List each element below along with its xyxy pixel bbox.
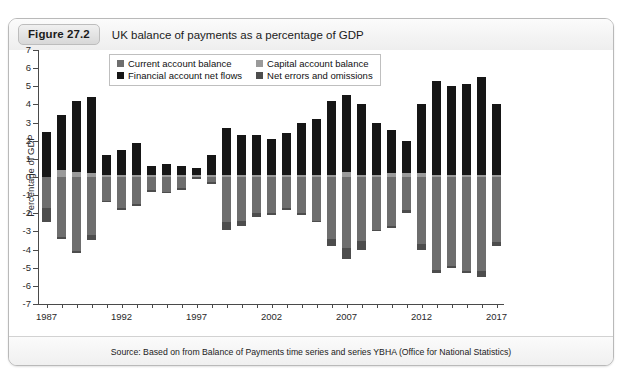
bar-group[interactable] [252, 50, 261, 304]
bar-group[interactable] [87, 50, 96, 304]
bar-group[interactable] [162, 50, 171, 304]
bar-segment [387, 130, 396, 174]
bar-group[interactable] [192, 50, 201, 304]
bar-group[interactable] [237, 50, 246, 304]
bar-segment [177, 177, 186, 188]
chart-canvas: Percentage of GDP 76543210-1-2-3-4-5-6-7… [9, 50, 613, 336]
bar-group[interactable] [102, 50, 111, 304]
bar-group[interactable] [42, 50, 51, 304]
x-tick-mark [182, 304, 183, 308]
bar-group[interactable] [57, 50, 66, 304]
bar-group[interactable] [267, 50, 276, 304]
bar-segment [357, 177, 366, 241]
bar-segment [57, 237, 66, 239]
bar-segment [267, 177, 276, 213]
bar-group[interactable] [432, 50, 441, 304]
y-tick-mark [33, 68, 38, 69]
bar-group[interactable] [312, 50, 321, 304]
bar-segment [432, 81, 441, 175]
x-tick-label: 2007 [336, 311, 357, 322]
bar-segment [312, 221, 321, 223]
bar-segment [387, 226, 396, 228]
bar-segment [132, 204, 141, 206]
x-tick-mark [272, 304, 273, 308]
bar-segment [87, 173, 96, 177]
y-tick-mark [33, 159, 38, 160]
bar-segment [192, 168, 201, 175]
bar-group[interactable] [222, 50, 231, 304]
y-tick-mark [33, 141, 38, 142]
y-tick-label: -4 [23, 244, 31, 255]
bar-segment [267, 175, 276, 177]
x-tick-mark [77, 304, 78, 308]
bar-group[interactable] [402, 50, 411, 304]
y-tick-mark [33, 195, 38, 196]
bar-segment [72, 101, 81, 172]
bars-layer [39, 50, 504, 304]
bar-group[interactable] [477, 50, 486, 304]
figure-card: Figure 27.2 UK balance of payments as a … [8, 18, 614, 366]
x-tick-mark [242, 304, 243, 308]
figure-number-badge: Figure 27.2 [18, 24, 100, 45]
y-tick-label: 7 [26, 44, 31, 55]
x-tick-mark [452, 304, 453, 308]
bar-segment [312, 119, 321, 175]
bar-group[interactable] [207, 50, 216, 304]
bar-segment [297, 175, 306, 177]
bar-segment [237, 177, 246, 221]
bar-segment [387, 177, 396, 226]
bar-segment [432, 177, 441, 270]
bar-group[interactable] [492, 50, 501, 304]
bar-segment [282, 177, 291, 208]
y-tick-label: -2 [23, 207, 31, 218]
x-tick-mark [392, 304, 393, 308]
x-tick-mark [137, 304, 138, 308]
bar-segment [372, 177, 381, 230]
x-tick-mark [422, 304, 423, 308]
bar-segment [252, 177, 261, 213]
bar-group[interactable] [357, 50, 366, 304]
bar-group[interactable] [447, 50, 456, 304]
bar-group[interactable] [147, 50, 156, 304]
bar-group[interactable] [372, 50, 381, 304]
y-tick-label: -7 [23, 298, 31, 309]
legend-item[interactable]: Net errors and omissions [256, 70, 373, 81]
bar-segment [447, 266, 456, 268]
bar-segment [342, 177, 351, 248]
bar-group[interactable] [387, 50, 396, 304]
legend-item[interactable]: Financial account net flows [117, 70, 242, 81]
bar-segment [72, 172, 81, 177]
y-tick-mark [33, 304, 38, 305]
bar-segment [297, 123, 306, 176]
bar-segment [177, 175, 186, 177]
x-tick-mark [197, 304, 198, 308]
bar-segment [477, 175, 486, 177]
bar-segment [297, 213, 306, 215]
bar-segment [42, 208, 51, 223]
x-tick-mark [257, 304, 258, 308]
x-tick-label: 1997 [186, 311, 207, 322]
bar-segment [222, 175, 231, 177]
legend-item[interactable]: Capital account balance [256, 58, 373, 69]
bar-segment [162, 164, 171, 175]
x-tick-mark [92, 304, 93, 308]
bar-group[interactable] [177, 50, 186, 304]
bar-segment [117, 150, 126, 175]
bar-segment [462, 175, 471, 177]
bar-group[interactable] [417, 50, 426, 304]
x-tick-mark [497, 304, 498, 308]
bar-group[interactable] [117, 50, 126, 304]
bar-group[interactable] [132, 50, 141, 304]
bar-group[interactable] [297, 50, 306, 304]
bar-segment [492, 104, 501, 175]
bar-group[interactable] [342, 50, 351, 304]
bar-group[interactable] [462, 50, 471, 304]
figure-source: Source: Based on from Balance of Payment… [9, 336, 613, 366]
bar-group[interactable] [327, 50, 336, 304]
y-tick-label: -5 [23, 262, 31, 273]
legend-item[interactable]: Current account balance [117, 58, 242, 69]
bar-group[interactable] [72, 50, 81, 304]
bar-segment [222, 222, 231, 229]
x-tick-mark [347, 304, 348, 308]
bar-group[interactable] [282, 50, 291, 304]
